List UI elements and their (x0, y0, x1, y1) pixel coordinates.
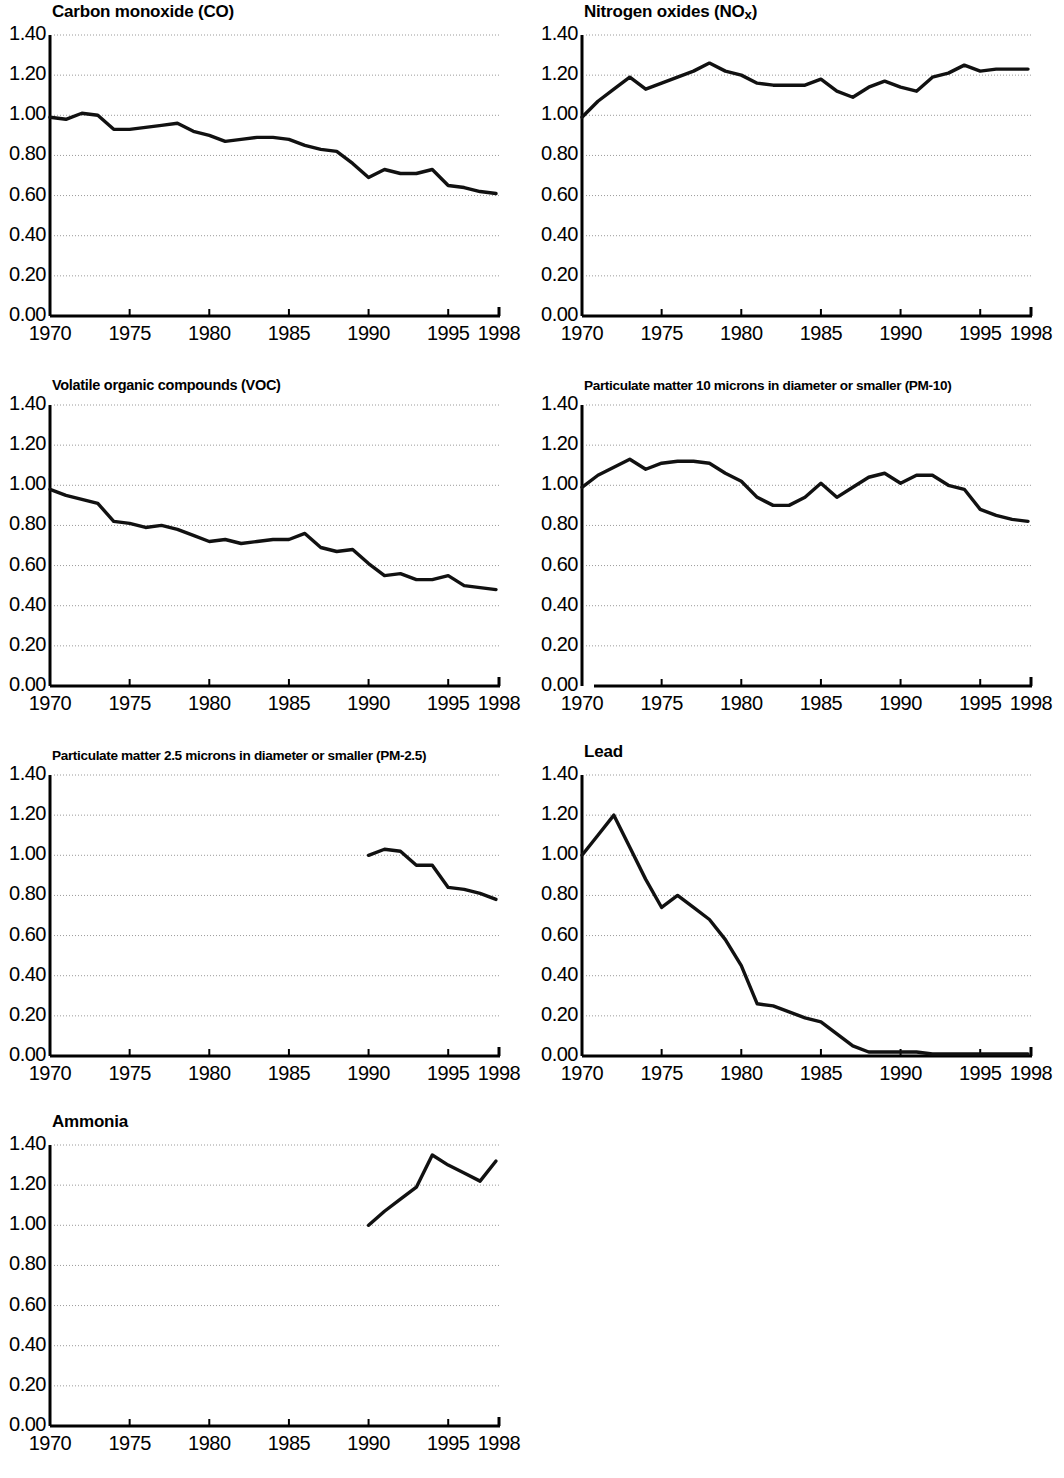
x-tick-label: 1975 (100, 1432, 160, 1455)
y-tick-label: 0.80 (9, 882, 46, 905)
chart-panel: Lead1.401.201.000.800.600.400.200.001970… (532, 740, 1064, 1110)
x-tick-label: 1970 (20, 1432, 80, 1455)
y-tick-label: 1.40 (541, 392, 578, 415)
y-tick-label: 1.00 (541, 472, 578, 495)
y-tick-label: 0.40 (541, 223, 578, 246)
x-tick-label: 1980 (179, 1062, 239, 1085)
x-tick-label: 1990 (871, 322, 931, 345)
x-tick-label: 1985 (259, 1062, 319, 1085)
y-tick-label: 0.20 (541, 1003, 578, 1026)
x-tick-label: 1975 (632, 1062, 692, 1085)
data-line (582, 63, 1028, 117)
y-tick-label: 0.80 (9, 142, 46, 165)
y-tick-label: 1.00 (541, 842, 578, 865)
y-tick-label: 1.00 (541, 102, 578, 125)
data-line (50, 113, 496, 193)
y-tick-label: 0.40 (9, 1333, 46, 1356)
y-tick-label: 0.60 (541, 183, 578, 206)
y-tick-label: 1.20 (541, 432, 578, 455)
x-tick-label: 1985 (791, 322, 851, 345)
chart-panel: Particulate matter 10 microns in diamete… (532, 370, 1064, 740)
x-tick-label: 1998 (469, 322, 529, 345)
plot-area (0, 1110, 532, 1478)
x-tick-label: 1975 (100, 692, 160, 715)
x-tick-label: 1998 (469, 1432, 529, 1455)
x-tick-label: 1985 (791, 1062, 851, 1085)
plot-area (0, 740, 532, 1110)
x-tick-label: 1975 (100, 322, 160, 345)
x-tick-label: 1975 (632, 322, 692, 345)
x-tick-label: 1975 (632, 692, 692, 715)
y-tick-label: 0.60 (541, 923, 578, 946)
x-tick-label: 1970 (20, 322, 80, 345)
x-tick-label: 1998 (469, 692, 529, 715)
x-tick-label: 1985 (259, 692, 319, 715)
y-tick-label: 1.40 (541, 22, 578, 45)
y-tick-label: 1.00 (9, 472, 46, 495)
y-tick-label: 0.80 (9, 512, 46, 535)
plot-area (0, 370, 532, 740)
y-tick-label: 0.60 (541, 553, 578, 576)
x-tick-label: 1990 (339, 1062, 399, 1085)
y-tick-label: 0.80 (541, 512, 578, 535)
data-line (582, 815, 1028, 1054)
y-tick-label: 0.40 (9, 223, 46, 246)
y-tick-label: 0.40 (541, 963, 578, 986)
x-tick-label: 1980 (179, 1432, 239, 1455)
x-tick-label: 1998 (1001, 692, 1061, 715)
x-tick-label: 1970 (20, 1062, 80, 1085)
y-tick-label: 0.60 (9, 553, 46, 576)
y-tick-label: 0.60 (9, 1293, 46, 1316)
y-tick-label: 1.20 (9, 62, 46, 85)
y-tick-label: 1.00 (9, 842, 46, 865)
x-tick-label: 1980 (711, 322, 771, 345)
y-tick-label: 0.20 (541, 633, 578, 656)
y-tick-label: 0.40 (9, 963, 46, 986)
y-tick-label: 0.20 (9, 263, 46, 286)
chart-panel: Ammonia1.401.201.000.800.600.400.200.001… (0, 1110, 532, 1478)
x-tick-label: 1990 (871, 692, 931, 715)
data-line (582, 459, 1028, 521)
x-tick-label: 1980 (711, 1062, 771, 1085)
x-tick-label: 1990 (339, 322, 399, 345)
y-tick-label: 0.40 (9, 593, 46, 616)
x-tick-label: 1998 (1001, 322, 1061, 345)
plot-area (532, 370, 1064, 740)
y-tick-label: 0.20 (541, 263, 578, 286)
y-tick-label: 0.80 (541, 882, 578, 905)
y-tick-label: 1.40 (9, 1132, 46, 1155)
x-tick-label: 1998 (469, 1062, 529, 1085)
x-tick-label: 1970 (20, 692, 80, 715)
x-tick-label: 1998 (1001, 1062, 1061, 1085)
plot-area (532, 740, 1064, 1110)
y-tick-label: 1.20 (9, 1172, 46, 1195)
y-tick-label: 0.40 (541, 593, 578, 616)
plot-area (532, 0, 1064, 370)
chart-panel: Nitrogen oxides (NOx)1.401.201.000.800.6… (532, 0, 1064, 370)
y-tick-label: 1.40 (9, 392, 46, 415)
plot-area (0, 0, 532, 370)
y-tick-label: 0.20 (9, 1373, 46, 1396)
x-tick-label: 1970 (552, 1062, 612, 1085)
x-tick-label: 1980 (179, 322, 239, 345)
x-tick-label: 1970 (552, 692, 612, 715)
x-tick-label: 1990 (871, 1062, 931, 1085)
y-tick-label: 1.00 (9, 102, 46, 125)
chart-panel: Particulate matter 2.5 microns in diamet… (0, 740, 532, 1110)
chart-panel: Carbon monoxide (CO)1.401.201.000.800.60… (0, 0, 532, 370)
chart-grid: Carbon monoxide (CO)1.401.201.000.800.60… (0, 0, 1064, 1478)
x-tick-label: 1980 (711, 692, 771, 715)
x-tick-label: 1985 (791, 692, 851, 715)
data-line (369, 1155, 496, 1225)
y-tick-label: 1.20 (541, 802, 578, 825)
data-line (369, 849, 496, 899)
x-tick-label: 1970 (552, 322, 612, 345)
y-tick-label: 1.40 (9, 22, 46, 45)
y-tick-label: 0.20 (9, 1003, 46, 1026)
data-line (50, 489, 496, 589)
y-tick-label: 0.60 (9, 183, 46, 206)
y-tick-label: 1.20 (541, 62, 578, 85)
y-tick-label: 1.20 (9, 802, 46, 825)
x-tick-label: 1975 (100, 1062, 160, 1085)
y-tick-label: 1.40 (541, 762, 578, 785)
